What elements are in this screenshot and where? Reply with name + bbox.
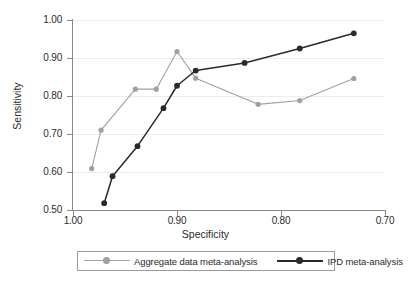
legend-entry-ipd[interactable]: IPD meta-analysis [271,252,402,270]
data-point[interactable] [174,83,180,89]
data-point[interactable] [135,143,141,149]
series-line [104,33,354,203]
data-point[interactable] [98,128,103,133]
data-point[interactable] [256,102,261,107]
data-point[interactable] [154,87,159,92]
legend-label-ipd: IPD meta-analysis [327,256,402,267]
legend-marker-ipd [277,256,323,266]
data-point[interactable] [89,166,94,171]
data-point[interactable] [351,30,357,36]
series-line [92,52,354,169]
data-series-layer [0,0,411,283]
series-ipd [101,30,356,206]
legend-label-aggregate: Aggregate data meta-analysis [134,256,257,267]
roc-chart-figure: 0.500.600.700.800.901.00 1.000.900.800.7… [0,0,411,283]
data-point[interactable] [193,68,199,74]
x-axis-title: Specificity [0,228,411,240]
data-point[interactable] [351,76,356,81]
data-point[interactable] [133,87,138,92]
legend-marker-aggregate [84,256,130,266]
data-point[interactable] [297,98,302,103]
data-point[interactable] [193,76,198,81]
data-point[interactable] [101,200,107,206]
series-aggregate [89,49,356,171]
data-point[interactable] [110,173,116,179]
data-point[interactable] [242,60,248,66]
data-point[interactable] [174,49,179,54]
data-point[interactable] [297,46,303,52]
legend-entry-aggregate[interactable]: Aggregate data meta-analysis [78,252,257,270]
data-point[interactable] [161,105,167,111]
legend: Aggregate data meta-analysis IPD meta-an… [77,251,335,271]
y-axis-title: Sensitivity [11,61,23,151]
